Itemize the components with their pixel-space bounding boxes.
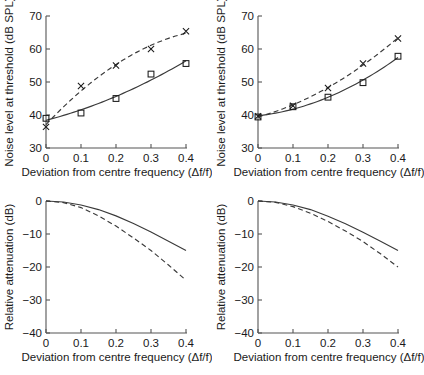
fit-curve-dashed (258, 38, 398, 117)
y-tick-label: 30 (241, 142, 254, 154)
panel-bottom-right: 0 −10 −20 −30 −40 Relative attenuation (… (212, 185, 424, 375)
y-axis-top-left: 70 60 50 40 30 Noise level at threshold … (3, 0, 50, 167)
x-tick-marks (258, 329, 398, 333)
markers-cross (255, 35, 401, 119)
x-tick-marks (258, 144, 398, 148)
y-axis-title: Noise level at threshold (dB SPL) (215, 0, 227, 167)
fit-curve-dashed (46, 33, 186, 124)
y-axis-title: Relative attenuation (dB) (3, 204, 15, 331)
x-tick-label: 0.2 (320, 152, 336, 164)
x-tick-marks (46, 329, 186, 333)
y-axis-top-right: 70 60 50 40 30 Noise level at threshold … (215, 0, 262, 167)
panel-top-left: 70 60 50 40 30 Noise level at threshold … (0, 0, 212, 190)
x-axis-title: Deviation from centre frequency (Δf/f) (233, 166, 424, 178)
y-tick-label: −20 (234, 261, 254, 273)
y-tick-label: −40 (234, 327, 254, 339)
x-tick-label: 0.4 (390, 152, 407, 164)
x-axis-title: Deviation from centre frequency (Δf/f) (21, 351, 212, 363)
x-tick-label: 0.1 (73, 152, 89, 164)
x-tick-label: 0.3 (355, 152, 371, 164)
y-tick-label: 40 (29, 109, 42, 121)
y-axis-bottom-left: 0 −10 −20 −30 −40 Relative attenuation (… (3, 195, 50, 339)
data-point-cross (183, 28, 189, 34)
fit-curve-solid (46, 61, 186, 120)
x-axis-title: Deviation from centre frequency (Δf/f) (233, 351, 424, 363)
y-tick-label: 0 (248, 195, 254, 207)
y-axis-title: Noise level at threshold (dB SPL) (3, 0, 15, 167)
y-tick-label: 70 (29, 10, 42, 22)
x-tick-label: 0.2 (108, 152, 124, 164)
data-point-cross (395, 35, 401, 41)
y-tick-label: 30 (29, 142, 42, 154)
y-tick-marks (258, 201, 262, 333)
x-tick-label: 0.4 (178, 152, 195, 164)
x-tick-label: 0.2 (320, 337, 336, 349)
x-tick-label: 0.1 (73, 337, 89, 349)
data-point-cross (148, 46, 154, 52)
y-axis-title: Relative attenuation (dB) (215, 204, 227, 331)
y-tick-label: 70 (241, 10, 254, 22)
x-axis-top-right: 0 0.1 0.2 0.3 0.4 Deviation from centre … (233, 144, 424, 178)
attenuation-curve-solid (258, 201, 398, 251)
y-tick-label: 60 (29, 43, 42, 55)
y-tick-label: 40 (241, 109, 254, 121)
attenuation-curve-dashed (46, 201, 186, 280)
x-tick-label: 0.3 (143, 337, 159, 349)
x-tick-label: 0.3 (355, 337, 371, 349)
attenuation-curve-dashed (258, 201, 398, 267)
y-tick-label: 50 (241, 76, 254, 88)
plot-bottom-left: 0 −10 −20 −30 −40 Relative attenuation (… (0, 185, 212, 375)
y-tick-label: −10 (234, 228, 254, 240)
data-point-cross (78, 83, 84, 89)
y-tick-marks (46, 201, 50, 333)
data-point-cross (325, 85, 331, 91)
y-tick-marks (258, 16, 262, 148)
data-layer-bottom-left (46, 201, 186, 280)
data-point-square (148, 71, 154, 77)
data-layer-bottom-right (258, 201, 398, 267)
x-axis-bottom-right: 0 0.1 0.2 0.3 0.4 Deviation from centre … (233, 329, 424, 363)
x-tick-label: 0.4 (390, 337, 407, 349)
plot-top-right: 70 60 50 40 30 Noise level at threshold … (212, 0, 424, 190)
x-tick-label: 0.1 (285, 152, 301, 164)
y-tick-label: −30 (22, 294, 42, 306)
y-tick-label: −40 (22, 327, 42, 339)
y-tick-label: 60 (241, 43, 254, 55)
x-tick-label: 0 (43, 152, 49, 164)
x-tick-marks (46, 144, 186, 148)
y-tick-label: 0 (36, 195, 42, 207)
x-axis-top-left: 0 0.1 0.2 0.3 0.4 Deviation from centre … (21, 144, 212, 178)
x-axis-bottom-left: 0 0.1 0.2 0.3 0.4 Deviation from centre … (21, 329, 212, 363)
x-axis-title: Deviation from centre frequency (Δf/f) (21, 166, 212, 178)
x-tick-label: 0.4 (178, 337, 195, 349)
x-tick-label: 0.1 (285, 337, 301, 349)
fit-curve-solid (258, 58, 398, 116)
y-axis-bottom-right: 0 −10 −20 −30 −40 Relative attenuation (… (215, 195, 262, 339)
plot-bottom-right: 0 −10 −20 −30 −40 Relative attenuation (… (212, 185, 424, 375)
x-tick-label: 0.3 (143, 152, 159, 164)
panel-bottom-left: 0 −10 −20 −30 −40 Relative attenuation (… (0, 185, 212, 375)
figure-panel-grid: 70 60 50 40 30 Noise level at threshold … (0, 0, 424, 375)
plot-top-left: 70 60 50 40 30 Noise level at threshold … (0, 0, 212, 190)
x-tick-label: 0 (43, 337, 49, 349)
panel-top-right: 70 60 50 40 30 Noise level at threshold … (212, 0, 424, 190)
data-layer-top-right (255, 35, 401, 120)
x-tick-label: 0 (255, 152, 261, 164)
y-tick-label: −10 (22, 228, 42, 240)
data-point-cross (113, 62, 119, 68)
y-tick-label: −30 (234, 294, 254, 306)
y-tick-label: 50 (29, 76, 42, 88)
markers-square (255, 53, 401, 120)
markers-square (43, 61, 189, 122)
x-tick-label: 0.2 (108, 337, 124, 349)
x-tick-label: 0 (255, 337, 261, 349)
y-tick-label: −20 (22, 261, 42, 273)
data-layer-top-left (43, 28, 189, 130)
